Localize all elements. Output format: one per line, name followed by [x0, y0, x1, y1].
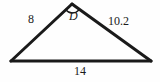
side-length-label-right: 10.2	[108, 15, 129, 27]
triangle-side-right	[72, 4, 151, 61]
side-length-label-base: 14	[74, 65, 86, 77]
side-length-label-left: 8	[28, 13, 34, 25]
triangle-figure: 8 10.2 14 D	[0, 0, 160, 82]
vertex-label-d: D	[69, 10, 78, 22]
triangle-side-left	[11, 4, 72, 61]
